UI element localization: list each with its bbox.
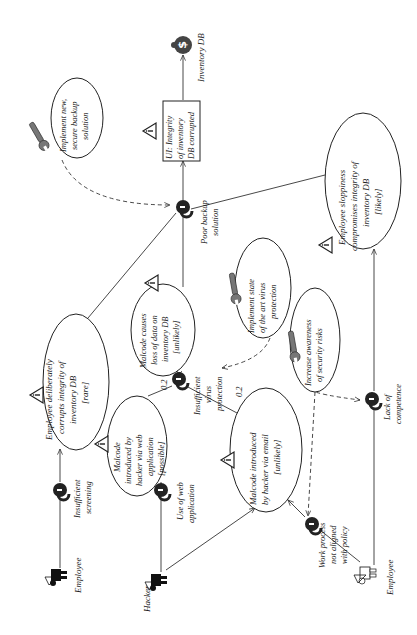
svg-text:protection: protection <box>268 284 278 320</box>
vulnerability-work-process[interactable]: Work process not aligned with policy <box>305 517 349 568</box>
svg-text:[likely]: [likely] <box>373 188 383 215</box>
vulnerability-lack-competence[interactable]: Lack of competence <box>365 384 403 424</box>
svg-text:[unlikely]: [unlikely] <box>272 439 282 475</box>
svg-text:Implement state: Implement state <box>246 279 256 334</box>
threat-employee-accidental[interactable]: Employee <box>354 560 395 596</box>
money-bag-icon: $ <box>171 36 192 54</box>
warning-icon <box>143 123 156 139</box>
svg-text:virus: virus <box>203 385 213 403</box>
svg-text:DB corrupted: DB corrupted <box>186 111 196 160</box>
svg-text:Insufficient: Insufficient <box>192 376 202 416</box>
asset-inventory-db[interactable]: $ Inventory DB <box>171 33 206 83</box>
svg-text:with policy: with policy <box>339 526 349 564</box>
vulnerability-insufficient-virus[interactable]: Insufficient virus protection <box>172 372 224 416</box>
asset-label: Inventory DB <box>196 33 206 83</box>
treatment-backup[interactable]: Implement new, secure backup solution <box>27 78 103 158</box>
lock-icon <box>154 483 170 500</box>
edge-label-email-virus: 0.2 <box>234 386 244 397</box>
svg-text:inventory DB: inventory DB <box>160 316 170 362</box>
svg-text:Poor backup: Poor backup <box>199 200 209 245</box>
lock-icon <box>172 372 188 389</box>
svg-text:application: application <box>186 484 196 523</box>
svg-text:loss of data on: loss of data on <box>149 315 159 365</box>
svg-text:of the art virus: of the art virus <box>257 282 267 333</box>
lock-icon <box>53 483 69 500</box>
unwanted-incident[interactable]: UI: Integrity of inventory DB corrupted <box>143 101 200 161</box>
svg-text:screening: screening <box>83 481 93 514</box>
svg-text:Implement new,: Implement new, <box>58 99 68 153</box>
svg-text:inventory DB: inventory DB <box>361 178 371 227</box>
vulnerability-use-web-app[interactable]: Use of web application <box>154 482 196 523</box>
svg-text:Employee deliberately: Employee deliberately <box>44 359 54 441</box>
svg-text:compromises integrity of: compromises integrity of <box>349 160 359 251</box>
svg-text:corrupts integrity of: corrupts integrity of <box>56 360 66 434</box>
treatment-awareness[interactable]: Increase awareness of security risks <box>286 288 340 392</box>
deliberate-human-threat-icon <box>45 569 67 586</box>
svg-text:Increase awareness: Increase awareness <box>303 319 313 387</box>
warning-icon <box>95 436 108 452</box>
vulnerability-insufficient-screening[interactable]: Insufficient screening <box>53 479 93 519</box>
svg-text:competence: competence <box>393 384 403 424</box>
svg-text:by hacker via email: by hacker via email <box>260 434 270 505</box>
threat-hacker[interactable]: Hacker <box>142 574 167 613</box>
svg-text:Lack of: Lack of <box>382 393 392 421</box>
threat-scenario-employee-sloppiness[interactable]: Employee sloppiness compromises integrit… <box>319 113 401 253</box>
svg-text:of inventory: of inventory <box>175 118 185 159</box>
svg-text:Work process: Work process <box>317 522 327 568</box>
svg-text:secure backup: secure backup <box>69 101 79 150</box>
svg-text:Employee sloppiness: Employee sloppiness <box>337 169 347 246</box>
svg-text:Employee: Employee <box>385 560 395 596</box>
warning-icon <box>221 452 234 468</box>
svg-text:solution: solution <box>210 209 220 236</box>
coras-diagram: $ Inventory DB UI: Integrity of inventor… <box>0 0 417 635</box>
svg-text:[possible]: [possible] <box>156 442 166 476</box>
warning-icon <box>30 387 43 403</box>
lock-icon <box>365 392 381 409</box>
lock-icon <box>176 200 192 217</box>
svg-text:of security risks: of security risks <box>314 327 324 382</box>
treatment-virus[interactable]: Implement state of the art virus protect… <box>227 238 291 338</box>
svg-text:UI: Integrity: UI: Integrity <box>164 116 174 159</box>
svg-text:application: application <box>145 437 155 476</box>
threat-scenario-malcode-loss[interactable]: Malcode causes loss of data on inventory… <box>131 275 195 376</box>
threat-scenario-malcode-email[interactable]: Malcode introduced by hacker via email [… <box>221 388 302 512</box>
svg-text:not aligned: not aligned <box>328 525 338 564</box>
svg-text:protection: protection <box>214 376 224 412</box>
svg-text:Employee: Employee <box>73 558 83 594</box>
warning-icon <box>319 237 332 253</box>
svg-text:[unlikely]: [unlikely] <box>171 320 181 354</box>
svg-text:Malcode: Malcode <box>112 442 122 473</box>
svg-text:Malcode introduced: Malcode introduced <box>248 432 258 506</box>
svg-text:Use of web: Use of web <box>175 482 185 520</box>
wrench-icon <box>27 120 52 153</box>
svg-text:solution: solution <box>80 113 90 140</box>
svg-text:$: $ <box>176 41 189 49</box>
accidental-human-threat-icon <box>354 567 376 584</box>
svg-text:hacker via web: hacker via web <box>134 435 144 486</box>
svg-text:Malcode causes: Malcode causes <box>138 313 148 369</box>
svg-text:Insufficient: Insufficient <box>72 479 82 519</box>
svg-text:[rare]: [rare] <box>80 381 90 404</box>
unwanted-incident-text: UI: Integrity of inventory DB corrupted <box>164 111 196 160</box>
svg-text:Hacker: Hacker <box>142 585 152 613</box>
svg-text:inventory DB: inventory DB <box>68 375 78 424</box>
svg-text:introduced by: introduced by <box>123 437 133 484</box>
edge-label-web-virus: 0.2 <box>159 379 169 390</box>
threat-scenario-employee-deliberately[interactable]: Employee deliberately corrupts integrity… <box>30 314 109 450</box>
threat-employee-deliberate[interactable]: Employee <box>45 558 83 594</box>
